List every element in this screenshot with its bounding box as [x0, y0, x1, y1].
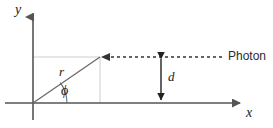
- impact-parameter-label: d: [168, 70, 175, 83]
- radius-label: r: [59, 65, 64, 78]
- angle-label: ϕ: [61, 84, 68, 98]
- x-axis-label: x: [246, 106, 252, 120]
- diagram-canvas: [0, 0, 273, 128]
- photon-geometry-diagram: y x r ϕ d Photon: [0, 0, 273, 128]
- photon-label: Photon: [228, 50, 266, 62]
- y-axis-label: y: [15, 3, 21, 17]
- axes: [5, 17, 240, 120]
